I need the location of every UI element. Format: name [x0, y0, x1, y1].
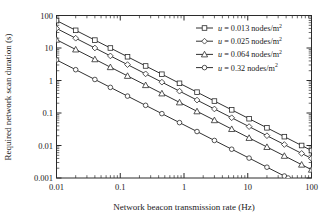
x-tick-label: 0.1 [115, 182, 126, 192]
data-point-marker [247, 116, 252, 121]
data-point-marker [73, 67, 78, 72]
data-point-marker [125, 94, 130, 99]
data-point-marker [212, 138, 217, 143]
data-point-marker [125, 54, 130, 59]
y-tick-label: 10 [45, 43, 54, 53]
data-point-marker [143, 103, 148, 108]
data-point-marker [265, 126, 270, 131]
data-point-marker [265, 165, 270, 170]
x-tick-label: 0.01 [49, 182, 64, 192]
y-tick-label: 1 [49, 76, 53, 86]
data-point-marker [195, 129, 200, 134]
data-point-marker [73, 28, 78, 33]
legend-label: u = 0.025 nodes/m2 [218, 36, 282, 46]
legend-label: u = 0.32 nodes/m2 [218, 62, 278, 72]
y-tick-label: 0.01 [38, 141, 53, 151]
figure-container: 0.010.1110100 0.0010.010.1110100 Network… [0, 0, 326, 220]
data-point-marker [299, 143, 304, 148]
y-tick-label: 100 [40, 11, 53, 21]
data-point-marker [202, 26, 207, 31]
data-point-marker [160, 72, 165, 77]
y-tick-label: 0.001 [34, 173, 53, 183]
x-tick-label: 10 [244, 182, 253, 192]
y-axis-title: Required network scan duration (s) [3, 34, 13, 161]
data-point-marker [177, 81, 182, 86]
data-point-marker [108, 46, 113, 51]
data-point-marker [177, 120, 182, 125]
data-point-marker [229, 108, 234, 113]
data-point-marker [195, 90, 200, 95]
data-point-marker [108, 85, 113, 90]
x-tick-label: 1 [182, 182, 186, 192]
x-axis-title: Network beacon transmission rate (Hz) [113, 202, 254, 212]
data-point-marker [229, 147, 234, 152]
data-point-marker [93, 38, 98, 43]
data-point-marker [160, 111, 165, 116]
data-point-marker [202, 65, 207, 70]
data-point-marker [93, 77, 98, 82]
data-point-marker [247, 156, 252, 161]
log-log-line-chart: 0.010.1110100 0.0010.010.1110100 Network… [0, 0, 326, 220]
legend-label: u = 0.013 nodes/m2 [218, 23, 282, 33]
data-point-marker [282, 134, 287, 139]
y-tick-label: 0.1 [42, 108, 53, 118]
x-tick-label: 100 [305, 182, 318, 192]
data-point-marker [212, 99, 217, 104]
data-point-marker [143, 64, 148, 69]
legend-label: u = 0.064 nodes/m2 [218, 49, 282, 59]
